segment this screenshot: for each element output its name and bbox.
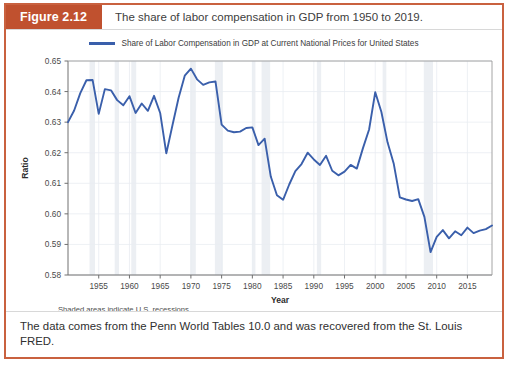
x-tick-label: 1970 bbox=[182, 281, 201, 291]
x-tick-label: 2000 bbox=[366, 281, 385, 291]
y-tick-label: 0.61 bbox=[45, 178, 62, 188]
figure-footer-text: The data comes from the Penn World Table… bbox=[6, 311, 502, 357]
figure-caption: The share of labor compensation in GDP f… bbox=[102, 5, 502, 29]
x-tick-label: 1990 bbox=[305, 281, 324, 291]
x-axis-title: Year bbox=[271, 295, 290, 305]
figure-header: Figure 2.12 The share of labor compensat… bbox=[6, 5, 502, 30]
x-tick-label: 1985 bbox=[274, 281, 293, 291]
y-tick-label: 0.58 bbox=[45, 270, 62, 280]
figure-card: Figure 2.12 The share of labor compensat… bbox=[4, 3, 504, 359]
plot-area: 0.580.590.600.610.620.630.640.65 1955196… bbox=[6, 31, 502, 316]
y-tick-labels-group: 0.580.590.600.610.620.630.640.65 bbox=[45, 56, 62, 280]
x-tick-label: 1955 bbox=[89, 281, 108, 291]
figure-number-badge: Figure 2.12 bbox=[6, 5, 102, 29]
y-tick-label: 0.64 bbox=[45, 87, 62, 97]
y-tick-label: 0.62 bbox=[45, 148, 62, 158]
y-tick-label: 0.60 bbox=[45, 209, 62, 219]
x-tick-labels-group: 1955196019651970197519801985199019952000… bbox=[89, 281, 477, 291]
y-tick-label: 0.65 bbox=[45, 56, 62, 66]
x-tick-label: 2010 bbox=[427, 281, 446, 291]
x-tick-label: 1975 bbox=[212, 281, 231, 291]
y-axis-title: Ratio bbox=[20, 157, 30, 178]
x-tick-label: 2005 bbox=[397, 281, 416, 291]
chart-region: Share of Labor Compensation in GDP at Cu… bbox=[6, 31, 502, 316]
line-chart-svg: 0.580.590.600.610.620.630.640.65 1955196… bbox=[6, 31, 506, 316]
x-tick-label: 1960 bbox=[120, 281, 139, 291]
x-tick-label: 1995 bbox=[335, 281, 354, 291]
x-tick-label: 1980 bbox=[243, 281, 262, 291]
recession-bands-group bbox=[90, 61, 434, 275]
y-tick-label: 0.63 bbox=[45, 117, 62, 127]
x-tick-label: 1965 bbox=[151, 281, 170, 291]
x-tick-label: 2015 bbox=[458, 281, 477, 291]
y-tick-label: 0.59 bbox=[45, 239, 62, 249]
